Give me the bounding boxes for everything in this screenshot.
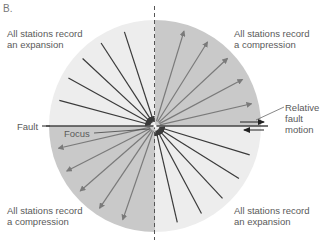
quadrant-label-line: a compression	[234, 39, 310, 50]
focus-label: Focus	[64, 128, 90, 139]
focus-point	[153, 124, 156, 127]
rfm-line: Relative	[285, 102, 319, 113]
quadrant-label-lower-left: All stations record a compression	[7, 205, 83, 227]
quadrant-label-line: All stations record	[234, 205, 310, 216]
fault-label: Fault	[17, 121, 38, 132]
rfm-line: motion	[285, 124, 319, 135]
quadrant-label-line: All stations record	[7, 28, 83, 39]
quadrant-label-lower-right: All stations record an expansion	[234, 205, 310, 227]
rfm-line: fault	[285, 113, 319, 124]
quadrant-label-line: an expansion	[234, 216, 310, 227]
quadrant-label-line: All stations record	[7, 205, 83, 216]
quadrant-label-line: a compression	[7, 216, 83, 227]
quadrant-label-line: an expansion	[7, 39, 83, 50]
relative-fault-motion-label: Relative fault motion	[285, 102, 319, 135]
quadrant-label-line: All stations record	[234, 28, 310, 39]
quadrant-label-upper-right: All stations record a compression	[234, 28, 310, 50]
quadrant-label-upper-left: All stations record an expansion	[7, 28, 83, 50]
panel-label: B.	[3, 3, 12, 14]
